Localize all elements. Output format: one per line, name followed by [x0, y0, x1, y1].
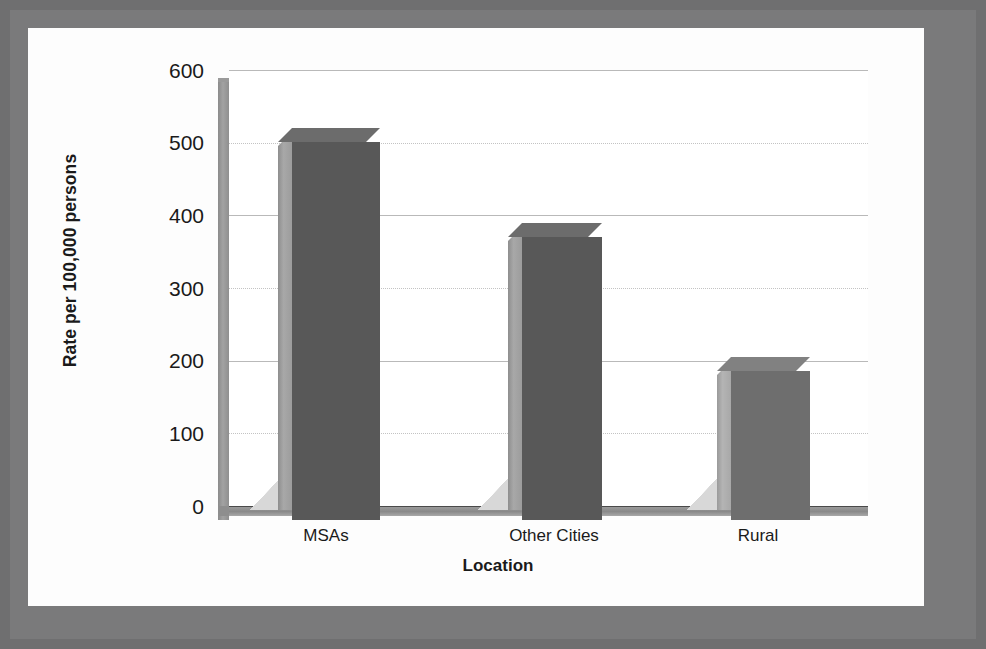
y-tick-100: 100 [140, 423, 204, 444]
y-axis-tick-labels: 600 500 400 300 200 100 0 [140, 28, 204, 606]
y-tick-400: 400 [140, 205, 204, 226]
scanned-page-frame: Rate per 100,000 persons 600 500 400 300… [0, 0, 986, 649]
bar-rural[interactable] [731, 72, 810, 520]
bar-front-other-cities [522, 237, 602, 520]
bar-side-rural [717, 361, 731, 510]
x-tick-rural: Rural [678, 526, 838, 546]
bar-top-msas [278, 128, 380, 142]
bar-side-msas [278, 132, 292, 510]
bar-msas[interactable] [292, 72, 380, 520]
x-axis-title: Location [218, 556, 778, 576]
bar-top-other-cities [508, 223, 602, 237]
y-tick-200: 200 [140, 350, 204, 371]
bar-top-rural [717, 357, 810, 371]
plot-left-wall-3d [218, 82, 229, 520]
y-tick-300: 300 [140, 278, 204, 299]
y-tick-600: 600 [140, 60, 204, 81]
y-axis-title: Rate per 100,000 persons [60, 131, 81, 391]
y-tick-500: 500 [140, 132, 204, 153]
bar-other-cities[interactable] [522, 72, 602, 520]
plot-area [218, 68, 868, 520]
bar-chart: Rate per 100,000 persons 600 500 400 300… [28, 28, 924, 606]
y-tick-0: 0 [140, 496, 204, 517]
bar-side-other-cities [508, 227, 522, 510]
bar-front-rural [731, 371, 810, 520]
bar-front-msas [292, 142, 380, 520]
x-tick-other-cities: Other Cities [464, 526, 644, 546]
x-tick-msas: MSAs [246, 526, 406, 546]
chart-page: Rate per 100,000 persons 600 500 400 300… [28, 28, 924, 606]
